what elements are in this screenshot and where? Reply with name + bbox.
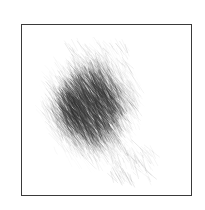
artboard [0, 0, 205, 210]
picture-frame-border [21, 24, 192, 196]
